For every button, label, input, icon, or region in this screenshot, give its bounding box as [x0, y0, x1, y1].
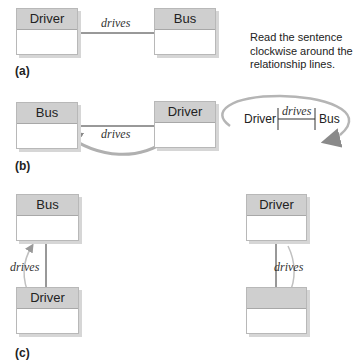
entity-bus-c: Bus	[16, 194, 79, 241]
relationship-label-b: drives	[101, 127, 130, 142]
entity-driver-a: Driver	[16, 8, 78, 55]
panel-label-b: (b)	[15, 159, 30, 173]
entity-driver-c: Driver	[16, 287, 79, 334]
relationship-label-a: drives	[101, 16, 130, 31]
entity-driver-c-right: Driver	[246, 194, 307, 241]
entity-name: Driver	[247, 195, 306, 216]
sentence-object: Bus	[319, 112, 340, 126]
sentence-verb: drives	[282, 104, 311, 119]
panel-label-c: (c)	[15, 346, 30, 360]
entity-name: Driver	[155, 102, 215, 123]
entity-bus-a: Bus	[154, 8, 216, 55]
panel-label-a: (a)	[15, 64, 30, 78]
entity-name: Bus	[17, 103, 77, 124]
entity-blank-c-right	[246, 287, 307, 334]
relationship-label-c-left: drives	[10, 260, 39, 275]
entity-name: Driver	[17, 288, 78, 309]
entity-name	[247, 288, 306, 309]
instruction-note: Read the sentence clockwise around the r…	[250, 31, 360, 72]
entity-driver-b: Driver	[154, 101, 216, 148]
entity-bus-b: Bus	[16, 102, 78, 149]
entity-name: Bus	[17, 195, 78, 216]
relationship-label-c-right: drives	[274, 260, 303, 275]
entity-name: Driver	[17, 9, 77, 30]
entity-name: Bus	[155, 9, 215, 30]
sentence-subject: Driver	[244, 112, 276, 126]
